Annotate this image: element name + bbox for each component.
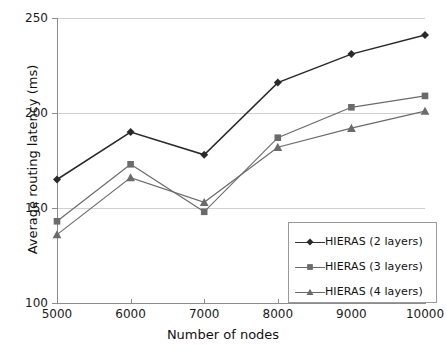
square-data-point: [422, 93, 429, 100]
chart-container: 250200150100 5000600070008000900010000 H…: [0, 0, 446, 355]
diamond-marker-icon: [295, 236, 325, 248]
square-data-point: [348, 104, 355, 111]
square-data-point: [127, 161, 134, 168]
triangle-data-point: [126, 173, 135, 181]
legend-item-3-layers: HIERAS (3 layers): [295, 260, 435, 274]
legend-item-2-layers: HIERAS (2 layers): [295, 235, 435, 249]
legend-item-4-layers: HIERAS (4 layers): [295, 285, 435, 299]
x-axis-title: Number of nodes: [0, 327, 446, 342]
legend-label: HIERAS (3 layers): [325, 261, 423, 273]
series-line: [57, 96, 425, 221]
legend: HIERAS (2 layers) HIERAS (3 layers) HIER…: [288, 222, 437, 303]
series-line: [57, 35, 425, 179]
triangle-data-point: [53, 230, 62, 238]
legend-label: HIERAS (2 layers): [325, 236, 423, 248]
triangle-marker-icon: [295, 286, 325, 298]
series-line: [57, 111, 425, 235]
square-marker-icon: [295, 261, 325, 273]
diamond-data-point: [127, 128, 135, 136]
series-2: [54, 93, 429, 225]
legend-label: HIERAS (4 layers): [325, 286, 423, 298]
triangle-data-point: [200, 198, 209, 206]
series-1: [53, 31, 429, 183]
diamond-data-point: [347, 50, 355, 58]
diamond-data-point: [53, 176, 61, 184]
square-data-point: [275, 134, 282, 141]
series-3: [53, 107, 430, 239]
diamond-data-point: [421, 31, 429, 39]
triangle-data-point: [421, 107, 430, 115]
square-data-point: [54, 218, 61, 225]
y-axis-title: Average routing latency (ms): [25, 40, 40, 280]
square-data-point: [201, 209, 208, 216]
